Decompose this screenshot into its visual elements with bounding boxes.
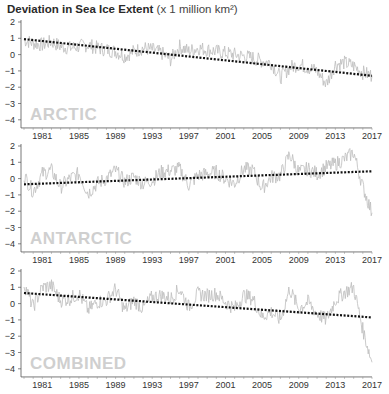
deviation-line (24, 35, 372, 87)
x-tick-label: 2017 (362, 131, 382, 141)
y-tick-label: −3 (5, 99, 15, 109)
x-tick-label: 1993 (142, 131, 162, 141)
x-tick-label: 1989 (106, 255, 126, 265)
y-tick-label: 1 (10, 282, 15, 292)
y-tick-label: 0 (10, 50, 15, 60)
x-tick-label: 2005 (252, 255, 272, 265)
y-tick-label: −3 (5, 223, 15, 233)
y-tick-label: −4 (5, 239, 15, 249)
y-tick-label: 1 (10, 33, 15, 43)
x-tick-label: 2017 (362, 255, 382, 265)
x-tick-label: 1989 (106, 380, 126, 390)
panel-label: ARCTIC (30, 105, 97, 124)
panel-label: ANTARCTIC (30, 229, 132, 248)
y-tick-label: −4 (5, 115, 15, 125)
y-tick-label: 2 (10, 17, 15, 27)
panel-antarctic: 210−1−2−3−419811985198919931997200120052… (5, 141, 382, 265)
x-tick-label: 1981 (32, 131, 52, 141)
x-tick-label: 2009 (289, 255, 309, 265)
y-tick-label: 2 (10, 266, 15, 276)
y-tick-label: −2 (5, 331, 15, 341)
panel-combined: 210−1−2−3−419811985198919931997200120052… (5, 266, 382, 390)
x-tick-label: 1997 (179, 380, 199, 390)
y-tick-label: −4 (5, 364, 15, 374)
x-tick-label: 1985 (69, 131, 89, 141)
x-tick-label: 1981 (32, 255, 52, 265)
x-tick-label: 1993 (142, 255, 162, 265)
x-tick-label: 2013 (325, 131, 345, 141)
panel-arctic: 210−1−2−3−419811985198919931997200120052… (5, 17, 382, 141)
x-tick-label: 1993 (142, 380, 162, 390)
y-tick-label: 0 (10, 174, 15, 184)
y-tick-label: −2 (5, 206, 15, 216)
x-tick-label: 2009 (289, 380, 309, 390)
x-tick-label: 2009 (289, 131, 309, 141)
trend-line (24, 39, 372, 76)
y-tick-label: 2 (10, 141, 15, 151)
y-tick-label: −1 (5, 66, 15, 76)
x-tick-label: 2005 (252, 131, 272, 141)
panel-label: COMBINED (30, 354, 127, 373)
x-tick-label: 1989 (106, 131, 126, 141)
x-tick-label: 1985 (69, 255, 89, 265)
deviation-line (24, 280, 372, 363)
y-tick-label: −1 (5, 190, 15, 200)
sea-ice-charts: 210−1−2−3−419811985198919931997200120052… (0, 0, 389, 394)
x-tick-label: 2013 (325, 255, 345, 265)
y-tick-label: −1 (5, 315, 15, 325)
y-tick-label: −3 (5, 348, 15, 358)
trend-line (24, 293, 372, 317)
y-tick-label: −2 (5, 82, 15, 92)
x-tick-label: 2001 (215, 380, 235, 390)
x-tick-label: 2013 (325, 380, 345, 390)
y-tick-label: 1 (10, 157, 15, 167)
x-tick-label: 1981 (32, 380, 52, 390)
x-tick-label: 2017 (362, 380, 382, 390)
x-tick-label: 2005 (252, 380, 272, 390)
x-tick-label: 2001 (215, 131, 235, 141)
x-tick-label: 1997 (179, 131, 199, 141)
x-tick-label: 2001 (215, 255, 235, 265)
x-tick-label: 1997 (179, 255, 199, 265)
x-tick-label: 1985 (69, 380, 89, 390)
y-tick-label: 0 (10, 299, 15, 309)
